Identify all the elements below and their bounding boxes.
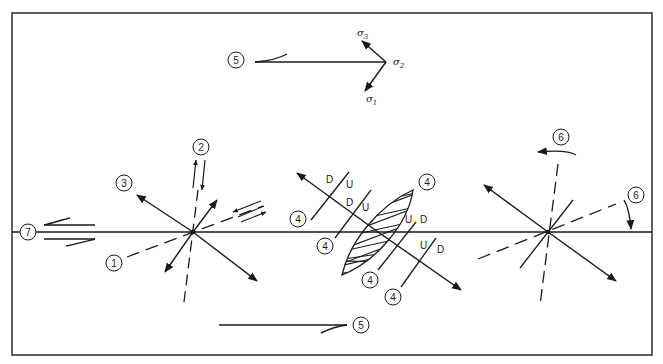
callout-4-a: 4	[290, 211, 306, 227]
shear-couple-mid	[238, 206, 264, 217]
svg-text:U: U	[420, 240, 427, 251]
callout-2: 2	[193, 139, 209, 155]
fault-marker-4: U D	[420, 240, 444, 255]
callout-4-e: 4	[385, 289, 401, 305]
fault-marker-3: U D	[405, 214, 427, 225]
callout-5-bottom: 5	[353, 317, 369, 333]
left-fault-set	[127, 160, 266, 302]
svg-text:D: D	[420, 214, 427, 225]
svg-text:U: U	[362, 202, 369, 213]
svg-text:5: 5	[233, 55, 239, 66]
svg-text:6: 6	[633, 190, 639, 201]
shear-couple-upper	[233, 201, 261, 212]
fault-dashed-vertical-right	[540, 164, 558, 305]
svg-text:3: 3	[121, 178, 127, 189]
slip-arrow-down	[202, 160, 205, 190]
fault-2-dashed	[184, 190, 198, 302]
stress-axes-group: σ3 σ2 σ1	[255, 27, 405, 107]
callout-5-top: 5	[228, 52, 244, 68]
shear-hook-top	[255, 54, 287, 62]
extension-arrow-right-nw	[484, 185, 548, 232]
callout-4-d: 4	[362, 272, 378, 288]
callout-1: 1	[106, 255, 122, 271]
extension-arrow-se	[193, 232, 257, 281]
callout-4-b: 4	[317, 238, 333, 254]
structural-geology-diagram: σ3 σ2 σ1 5 2 3 1	[0, 0, 663, 364]
svg-text:4: 4	[424, 177, 430, 188]
svg-text:U: U	[346, 179, 353, 190]
fault-marker-1: D U	[326, 174, 353, 190]
svg-text:D: D	[326, 174, 333, 185]
svg-text:6: 6	[558, 132, 564, 143]
svg-text:5: 5	[358, 320, 364, 331]
svg-text:1: 1	[111, 258, 117, 269]
slip-arrow-up	[193, 160, 196, 188]
sigma3-arrow	[362, 41, 386, 62]
normal-fault-4	[401, 238, 436, 287]
sigma1-label: σ1	[366, 93, 377, 107]
extension-arrow-right-se	[548, 232, 616, 281]
svg-text:4: 4	[390, 292, 396, 303]
svg-text:U: U	[405, 214, 412, 225]
rotation-arrow-right	[624, 200, 631, 229]
callout-6-right: 6	[628, 187, 644, 203]
intersection-point-right	[546, 230, 550, 234]
sigma3-label: σ3	[357, 27, 369, 41]
rotation-arrow-top	[538, 151, 576, 155]
svg-text:7: 7	[25, 227, 31, 238]
svg-text:D: D	[437, 244, 444, 255]
extension-arrow-nw	[137, 195, 193, 232]
right-fault-set	[478, 151, 631, 305]
sigma1-arrow	[365, 62, 386, 91]
shear-sense-bottom	[219, 325, 347, 333]
svg-text:4: 4	[295, 214, 301, 225]
callout-6-top: 6	[553, 129, 569, 145]
svg-text:4: 4	[367, 275, 373, 286]
svg-text:4: 4	[322, 241, 328, 252]
svg-text:D: D	[346, 197, 353, 208]
svg-text:2: 2	[198, 142, 204, 153]
sigma2-label: σ2	[393, 56, 405, 70]
intersection-point-left	[191, 230, 195, 234]
callout-7: 7	[20, 224, 36, 240]
callout-3: 3	[116, 175, 132, 191]
callout-4-c: 4	[419, 174, 435, 190]
